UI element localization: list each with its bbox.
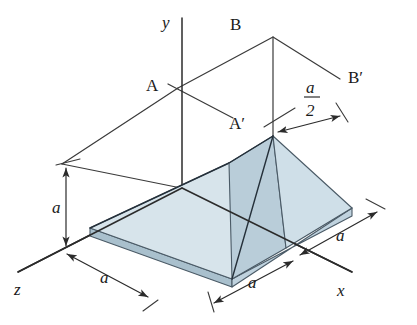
construction-line-left-down [62,88,178,164]
dimension-label-height-a: a [52,198,61,217]
x-near-a-extension [208,292,214,312]
dimension-label-a-half-denominator: 2 [306,101,315,120]
construction-line-b-to-bprime [273,37,340,79]
construction-line-a-to-aprime [168,84,233,118]
section-label-b-prime: B′ [348,68,363,87]
a-half-right-extension [336,103,348,122]
x-far-a-extension [366,199,385,209]
x-axis-label: x [336,281,345,300]
dimension-z-depth-a [67,254,158,311]
dimension-label-x-near-a: a [248,273,257,292]
dimension-label-a-half-numerator: a [306,78,315,97]
section-label-b: B [230,15,241,34]
a-half-left-extension [264,108,295,127]
dimension-label-z-depth-a: a [100,268,109,287]
section-label-a: A [146,76,159,95]
z-depth-a-extension [143,300,158,311]
z-axis-label: z [13,280,21,299]
inclined-plate [229,136,352,279]
construction-line-bottom-left [62,164,181,188]
section-label-a-prime: A′ [229,114,245,133]
engineering-diagram: y x z A A′ B B′ a a a a a 2 [0,0,417,325]
y-axis-label: y [160,13,170,32]
dimension-label-x-far-a: a [336,226,345,245]
figure-root: y x z A A′ B B′ a a a a a 2 [0,0,417,325]
construction-line-b-to-left [178,37,273,88]
